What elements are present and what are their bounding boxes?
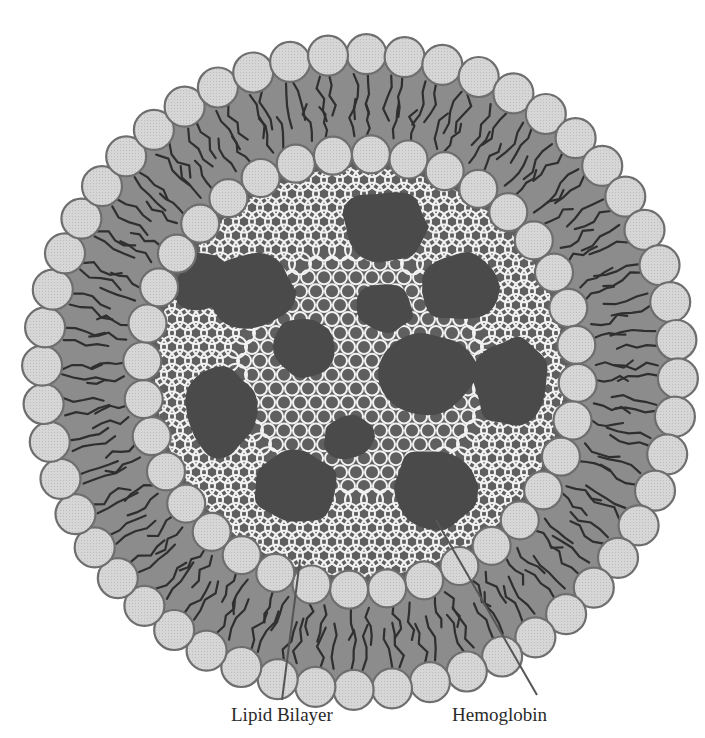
- inner-headgroup: [330, 571, 368, 609]
- outer-headgroup: [650, 282, 690, 322]
- outer-headgroup: [295, 667, 335, 707]
- outer-headgroup: [334, 670, 374, 710]
- outer-headgroup: [30, 422, 70, 462]
- inner-headgroup: [352, 135, 390, 173]
- outer-headgroup: [655, 397, 695, 437]
- inner-headgroup: [125, 380, 163, 418]
- outer-headgroup: [308, 36, 348, 76]
- outer-headgroup: [647, 434, 687, 474]
- inner-headgroup: [123, 342, 161, 380]
- inner-headgroup: [405, 561, 443, 599]
- liposome-diagram: [0, 0, 705, 738]
- outer-headgroup: [233, 53, 273, 93]
- outer-headgroup: [385, 37, 425, 77]
- inner-headgroup: [559, 364, 597, 402]
- inner-headgroup: [242, 159, 280, 197]
- inner-headgroup: [256, 554, 294, 592]
- inner-headgroup: [473, 527, 511, 565]
- inner-headgroup: [314, 137, 352, 175]
- inner-headgroup: [368, 569, 406, 607]
- inner-headgroup: [557, 326, 595, 364]
- inner-headgroup: [554, 402, 592, 440]
- outer-headgroup: [33, 270, 73, 310]
- inner-headgroup: [515, 221, 553, 259]
- outer-headgroup: [41, 459, 81, 499]
- outer-headgroup: [258, 659, 298, 699]
- outer-headgroup: [625, 210, 665, 250]
- hemoglobin-label: Hemoglobin: [452, 704, 547, 726]
- outer-headgroup: [25, 307, 65, 347]
- outer-headgroup: [658, 358, 698, 398]
- inner-headgroup: [140, 268, 178, 306]
- inner-headgroup: [549, 289, 587, 327]
- outer-headgroup: [482, 637, 522, 677]
- hemoglobin-molecule: [343, 192, 429, 262]
- outer-headgroup: [56, 494, 96, 534]
- inner-headgroup: [167, 485, 205, 523]
- outer-headgroup: [640, 245, 680, 285]
- outer-headgroup: [422, 45, 462, 85]
- outer-headgroup: [346, 34, 386, 74]
- lipid-bilayer-label: Lipid Bilayer: [231, 704, 333, 726]
- outer-headgroup: [656, 320, 696, 360]
- inner-headgroup: [390, 141, 428, 179]
- outer-headgroup: [270, 42, 310, 82]
- inner-headgroup: [209, 179, 247, 217]
- inner-headgroup: [129, 305, 167, 343]
- inner-headgroup: [133, 417, 171, 455]
- inner-headgroup: [426, 152, 464, 190]
- inner-headgroup: [440, 547, 478, 585]
- outer-headgroup: [24, 384, 64, 424]
- outer-headgroup: [410, 662, 450, 702]
- inner-headgroup: [277, 145, 315, 183]
- outer-headgroup: [22, 346, 62, 386]
- inner-headgroup: [542, 438, 580, 476]
- outer-headgroup: [198, 68, 238, 108]
- inner-headgroup: [535, 254, 573, 292]
- inner-headgroup: [147, 452, 185, 490]
- outer-headgroup: [447, 652, 487, 692]
- outer-headgroup: [372, 668, 412, 708]
